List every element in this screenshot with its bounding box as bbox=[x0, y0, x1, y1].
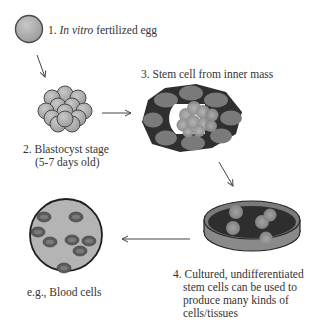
step-4-label: 4. Cultured, undifferentiated bbox=[173, 268, 304, 280]
step-3-number: 3. bbox=[141, 68, 150, 80]
step-4-line4: cells/tissues bbox=[183, 307, 238, 319]
arrow-egg-to-blastocyst bbox=[37, 55, 45, 77]
step-1-text: fertilized egg bbox=[93, 24, 157, 36]
step-2-line2: (5-7 days old) bbox=[35, 156, 100, 168]
petri-dish-icon bbox=[204, 201, 300, 251]
blood-cells-label: e.g., Blood cells bbox=[27, 286, 101, 298]
step-2-label: 2. Blastocyst stage bbox=[23, 143, 109, 155]
arrow-inner-mass-to-cultured bbox=[219, 162, 233, 186]
step-1-italic: In vitro bbox=[60, 24, 94, 36]
step-4-line3: produce many kinds of bbox=[183, 294, 289, 306]
step-3-label: 3. Stem cell from inner mass bbox=[141, 68, 273, 80]
step-2-number: 2. bbox=[23, 143, 32, 155]
fertilized-egg-icon bbox=[16, 16, 43, 43]
inner-cell-mass-icon bbox=[142, 84, 242, 152]
blastocyst-icon bbox=[38, 86, 92, 132]
step-4-line2: stem cells can be used to bbox=[183, 281, 297, 293]
blood-cells-icon bbox=[30, 199, 102, 273]
step-1-label: 1. In vitro fertilized egg bbox=[48, 24, 157, 36]
step-1-number: 1. bbox=[48, 24, 57, 36]
step-2-line1: Blastocyst stage bbox=[35, 143, 109, 155]
step-3-text: Stem cell from inner mass bbox=[153, 68, 274, 80]
step-4-line1: Cultured, undifferentiated bbox=[185, 268, 304, 280]
step-4-number: 4. bbox=[173, 268, 182, 280]
